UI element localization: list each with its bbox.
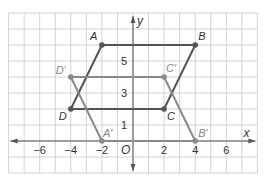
- vertex-point: [192, 138, 198, 144]
- vertex-point: [68, 106, 74, 112]
- vertex-point: [99, 42, 105, 48]
- x-axis-arrow-right-icon: [248, 139, 255, 144]
- x-tick-label: 2: [161, 144, 167, 156]
- x-tick-label: 4: [192, 144, 198, 156]
- labels: xyO−6−4−2246135ABCDA′B′C′D′: [33, 14, 250, 157]
- vertex-label: C′: [166, 62, 177, 74]
- vertex-label: C: [167, 110, 175, 122]
- vertex-label: A: [89, 30, 97, 42]
- x-axis-label: x: [242, 126, 250, 140]
- y-axis-arrow-up-icon: [131, 16, 136, 23]
- vertex-point: [161, 106, 167, 112]
- y-axis-label: y: [136, 14, 144, 28]
- x-axis-arrow-left-icon: [11, 139, 18, 144]
- x-tick-label: −2: [96, 144, 109, 156]
- axes: [11, 16, 256, 171]
- vertex-label: B′: [198, 127, 208, 139]
- vertex-label: A′: [102, 127, 113, 139]
- y-tick-label: 5: [121, 55, 127, 67]
- x-tick-label: 6: [223, 144, 229, 156]
- vertex-point: [192, 42, 198, 48]
- vertex-label: D′: [56, 64, 67, 76]
- x-tick-label: −6: [33, 144, 46, 156]
- vertex-label: D: [59, 110, 67, 122]
- coordinate-plane: xyO−6−4−2246135ABCDA′B′C′D′: [0, 0, 267, 181]
- vertex-point: [161, 74, 167, 80]
- x-tick-label: −4: [65, 144, 78, 156]
- origin-label: O: [121, 143, 130, 157]
- y-tick-label: 1: [121, 119, 127, 131]
- vertex-point: [99, 138, 105, 144]
- y-tick-label: 3: [121, 87, 127, 99]
- vertex-point: [68, 74, 74, 80]
- y-axis-arrow-down-icon: [131, 164, 136, 171]
- vertex-label: B: [198, 30, 205, 42]
